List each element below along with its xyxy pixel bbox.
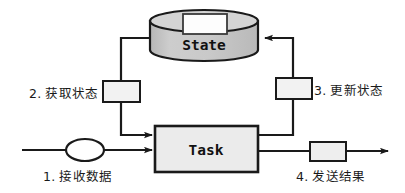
label-receive-data: 1. 接收数据 <box>43 166 112 185</box>
task-node[interactable]: Task <box>155 126 258 172</box>
label-fetch-state: 2. 获取状态 <box>29 83 98 102</box>
diagram-canvas: State Task 1. 接收数据 2. 获取状态 3. 更新状态 4. 发送… <box>0 0 405 193</box>
input-ellipse[interactable] <box>66 139 104 161</box>
fetch-state-box[interactable] <box>103 81 140 102</box>
state-top-box[interactable] <box>183 14 227 34</box>
state-node-label: State <box>182 37 226 53</box>
task-node-label: Task <box>189 142 224 158</box>
label-send-result: 4. 发送结果 <box>296 166 365 185</box>
label-update-state: 3. 更新状态 <box>314 80 383 99</box>
update-state-box[interactable] <box>276 78 312 99</box>
output-box[interactable] <box>310 142 346 161</box>
